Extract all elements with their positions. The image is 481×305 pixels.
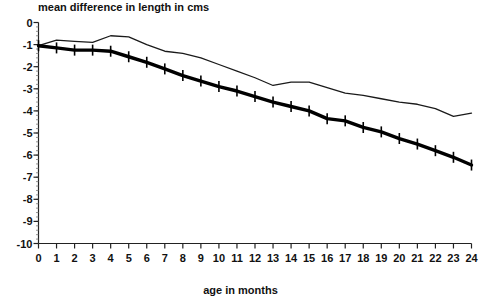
y-tick-label: -1 (3, 40, 33, 50)
x-tick-label: 13 (263, 253, 283, 264)
y-tick-label: -5 (3, 128, 33, 138)
x-tick-label: 23 (443, 253, 463, 264)
y-tick-label: -4 (3, 106, 33, 116)
y-tick-label: -10 (3, 239, 33, 249)
series-upper-line (39, 36, 472, 117)
y-tick-label: -3 (3, 84, 33, 94)
x-tick-label: 7 (155, 253, 175, 264)
x-tick-label: 9 (191, 253, 211, 264)
chart-container: mean difference in length in cms age in … (0, 0, 481, 305)
x-tick-label: 8 (173, 253, 193, 264)
x-tick-label: 11 (227, 253, 247, 264)
y-tick-label: -6 (3, 150, 33, 160)
x-tick-label: 21 (407, 253, 427, 264)
x-tick-label: 12 (245, 253, 265, 264)
major-ticks-group (34, 23, 472, 249)
x-tick-label: 16 (317, 253, 337, 264)
series-lower-line (39, 46, 472, 165)
x-tick-label: 6 (137, 253, 157, 264)
x-tick-label: 15 (299, 253, 319, 264)
y-tick-label: -7 (3, 172, 33, 182)
x-tick-label: 4 (101, 253, 121, 264)
y-tick-label: -2 (3, 62, 33, 72)
x-tick-label: 14 (281, 253, 301, 264)
x-tick-label: 22 (425, 253, 445, 264)
x-tick-label: 3 (83, 253, 103, 264)
x-tick-label: 19 (371, 253, 391, 264)
y-tick-label: 0 (3, 18, 33, 28)
x-tick-label: 5 (119, 253, 139, 264)
x-tick-label: 10 (209, 253, 229, 264)
x-tick-label: 2 (65, 253, 85, 264)
x-tick-label: 18 (353, 253, 373, 264)
y-tick-label: -8 (3, 194, 33, 204)
x-tick-label: 0 (29, 253, 49, 264)
y-tick-label: -9 (3, 216, 33, 226)
x-tick-label: 17 (335, 253, 355, 264)
axes-group (39, 23, 472, 244)
series-lower-markers (39, 40, 472, 170)
x-tick-label: 24 (462, 253, 481, 264)
x-tick-label: 20 (389, 253, 409, 264)
x-tick-label: 1 (47, 253, 67, 264)
